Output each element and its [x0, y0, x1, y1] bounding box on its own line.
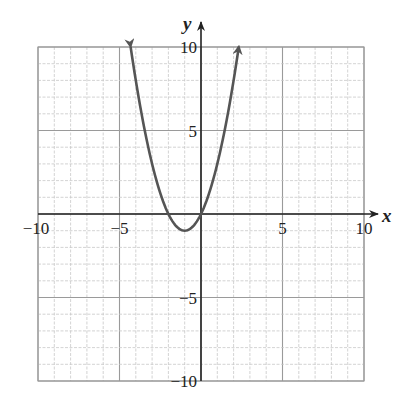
- axes: [38, 22, 378, 381]
- x-tick-label: −10: [23, 219, 50, 238]
- y-axis-label: y: [181, 13, 192, 34]
- x-tick-label: −5: [110, 219, 128, 238]
- y-tick-label: −5: [179, 289, 197, 308]
- parabola-chart: −10−5510−10−5510 x y: [0, 0, 418, 406]
- x-tick-label: 5: [278, 219, 287, 238]
- y-tick-label: 10: [180, 38, 197, 57]
- y-tick-label: 5: [189, 122, 198, 141]
- y-tick-label: −10: [170, 372, 197, 391]
- x-axis-label: x: [381, 205, 392, 226]
- x-tick-label: 10: [356, 219, 373, 238]
